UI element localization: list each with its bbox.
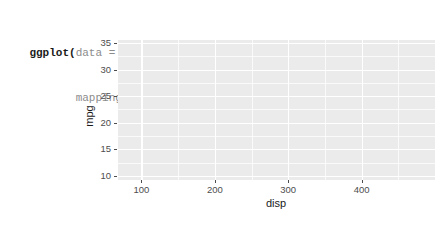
x-tick-mark: [362, 180, 363, 183]
y-tick-mark: [114, 123, 117, 124]
x-tick-mark: [215, 180, 216, 183]
y-tick-label: 10: [100, 170, 111, 181]
grid-minor-vertical: [325, 40, 326, 180]
ggplot-figure: 101520253035 100200300400 mpg disp: [0, 30, 435, 217]
grid-major-horizontal: [118, 149, 435, 150]
x-tick-mark: [288, 180, 289, 183]
x-tick-label: 300: [280, 184, 296, 195]
grid-minor-vertical: [398, 40, 399, 180]
plot-panel: [118, 40, 435, 180]
grid-major-vertical: [288, 40, 289, 180]
grid-major-horizontal: [118, 70, 435, 71]
grid-minor-vertical: [178, 40, 179, 180]
grid-minor-horizontal: [118, 83, 435, 84]
y-tick-mark: [114, 43, 117, 44]
x-tick-mark: [141, 180, 142, 183]
y-tick-label: 30: [100, 64, 111, 75]
y-tick-mark: [114, 96, 117, 97]
grid-minor-horizontal: [118, 136, 435, 137]
y-tick-mark: [114, 149, 117, 150]
x-axis-title: disp: [266, 197, 286, 209]
grid-major-horizontal: [118, 176, 435, 177]
y-tick-label: 15: [100, 143, 111, 154]
grid-major-vertical: [362, 40, 363, 180]
grid-major-vertical: [215, 40, 216, 180]
grid-minor-horizontal: [118, 56, 435, 57]
grid-major-horizontal: [118, 123, 435, 124]
y-tick-mark: [114, 176, 117, 177]
y-tick-label: 25: [100, 90, 111, 101]
x-tick-label: 400: [354, 184, 370, 195]
y-tick-mark: [114, 70, 117, 71]
grid-major-horizontal: [118, 43, 435, 44]
grid-minor-horizontal: [118, 163, 435, 164]
y-tick-label: 20: [100, 117, 111, 128]
grid-major-horizontal: [118, 96, 435, 97]
y-tick-label: 35: [100, 37, 111, 48]
grid-major-vertical: [141, 40, 142, 180]
x-tick-label: 200: [207, 184, 223, 195]
x-tick-label: 100: [134, 184, 150, 195]
grid-minor-horizontal: [118, 109, 435, 110]
grid-minor-vertical: [252, 40, 253, 180]
y-axis-title: mpg: [83, 105, 95, 126]
